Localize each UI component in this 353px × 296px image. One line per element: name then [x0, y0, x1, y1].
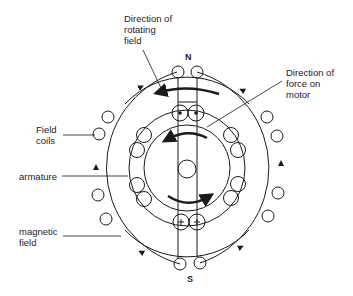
label-field-coils: Field coils — [36, 124, 57, 146]
armature-arrow-top — [168, 133, 207, 139]
label-north-pole: N — [185, 52, 192, 62]
label-south-pole: S — [187, 274, 193, 284]
armature-arrow-bottom — [168, 196, 208, 203]
north-pole-coil-left — [172, 66, 184, 78]
label-direction-force: Direction of force on motor — [286, 67, 334, 100]
rotating-field-arrow — [160, 88, 219, 94]
magnetic-field-line-right — [197, 72, 269, 263]
shaft — [178, 160, 196, 178]
magnetic-field-line-left — [106, 72, 180, 264]
label-magnetic-field: magnetic field — [19, 226, 58, 248]
label-armature: armature — [19, 171, 57, 182]
motor-diagram — [0, 0, 353, 296]
armature-inner-ring — [144, 125, 230, 211]
label-direction-rotating-field: Direction of rotating field — [124, 13, 172, 46]
